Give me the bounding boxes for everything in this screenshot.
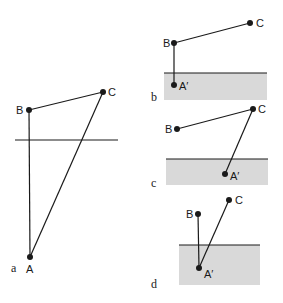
panel-label-c: c — [151, 176, 156, 190]
label-b: B — [165, 123, 172, 135]
shaded-region — [179, 245, 260, 285]
panel-label-b: b — [151, 90, 157, 104]
panel-c: B C A′ c — [151, 103, 268, 190]
point-c — [247, 20, 253, 26]
point-b — [195, 211, 201, 217]
label-a-prime: A′ — [179, 80, 188, 92]
point-b — [171, 40, 177, 46]
segment-bc — [29, 92, 103, 110]
point-a-prime — [171, 82, 177, 88]
label-a-prime: A′ — [204, 268, 213, 280]
label-a: A — [26, 263, 34, 275]
label-c: C — [258, 103, 266, 115]
label-c: C — [235, 194, 243, 206]
panel-label-a: a — [11, 261, 17, 275]
label-b: B — [16, 104, 23, 116]
panel-b: B C A′ b — [151, 17, 267, 104]
segment-bc — [177, 109, 253, 129]
segment-ac — [30, 92, 103, 257]
point-a-prime — [196, 265, 202, 271]
panel-a: B C A a — [11, 86, 118, 275]
panel-label-d: d — [151, 277, 157, 291]
label-b: B — [186, 208, 193, 220]
label-c: C — [256, 17, 264, 29]
point-c — [226, 197, 232, 203]
point-b — [26, 107, 32, 113]
point-b — [174, 126, 180, 132]
shaded-region — [166, 159, 268, 185]
segment-ab — [29, 110, 30, 257]
label-b: B — [163, 37, 170, 49]
segment-bc — [174, 23, 250, 43]
point-c — [250, 106, 256, 112]
point-c — [100, 89, 106, 95]
label-a-prime: A′ — [230, 170, 239, 182]
panel-d: B C A′ d — [151, 194, 260, 291]
point-a — [27, 254, 33, 260]
point-a-prime — [222, 171, 228, 177]
figure-canvas: B C A a B C A′ b B C A′ c — [0, 0, 283, 303]
label-c: C — [108, 86, 116, 98]
